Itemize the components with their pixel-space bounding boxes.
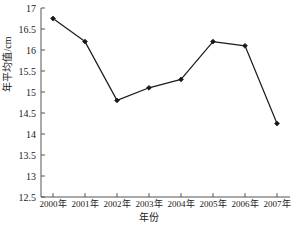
x-tick-label: 2002年 [104, 199, 131, 209]
x-tick-label: 2001年 [72, 199, 99, 209]
line-chart: 年平均值/cm 17 16.5 16 15.5 15 14.5 14 13.5 … [0, 0, 297, 228]
x-tick-label: 2004年 [168, 199, 195, 209]
x-tick-label: 2000年 [40, 199, 67, 209]
x-tick-label: 2006年 [232, 199, 259, 209]
x-axis-title: 年份 [0, 212, 297, 223]
x-tick-label: 2005年 [200, 199, 227, 209]
x-axis-tick-labels: 2000年 2001年 2002年 2003年 2004年 2005年 2006… [0, 0, 297, 228]
x-tick-label: 2007年 [264, 199, 291, 209]
x-tick-label: 2003年 [136, 199, 163, 209]
